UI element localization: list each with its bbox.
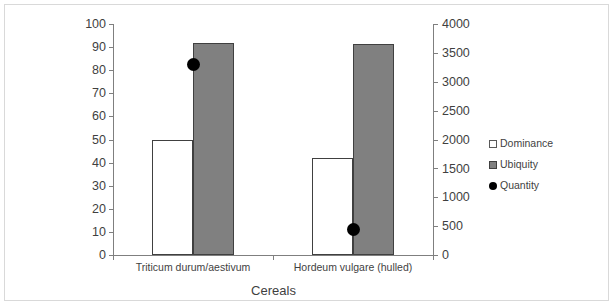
- y-axis-left-line: [113, 24, 114, 255]
- y-axis-left-tickmark: [109, 140, 113, 141]
- y-axis-left-tick-90: 90: [60, 41, 106, 54]
- legend: Dominance Ubiquity Quantity: [489, 133, 599, 196]
- y-axis-left-tickmark: [109, 93, 113, 94]
- y-axis-left-tickmark: [109, 24, 113, 25]
- y-axis-left-tick-80: 80: [60, 64, 106, 77]
- y-axis-left-tick-10: 10: [60, 226, 106, 239]
- y-axis-right-tickmark: [434, 226, 438, 227]
- y-axis-left-tick-70: 70: [60, 87, 106, 100]
- y-axis-right-tick-3000: 3000: [442, 76, 488, 89]
- open-square-icon: [489, 140, 497, 148]
- legend-label-quantity: Quantity: [500, 180, 539, 191]
- y-axis-left-tick-40: 40: [60, 157, 106, 170]
- x-axis-tickmark: [433, 255, 434, 260]
- legend-item-dominance[interactable]: Dominance: [489, 133, 599, 154]
- bar-dominance-hordeum[interactable]: [312, 158, 353, 255]
- filled-circle-icon: [489, 182, 497, 190]
- legend-item-ubiquity[interactable]: Ubiquity: [489, 154, 599, 175]
- y-axis-left-tickmark: [109, 70, 113, 71]
- legend-label-ubiquity: Ubiquity: [500, 159, 538, 170]
- x-axis-category-label-triticum: Triticum durum/aestivum: [113, 262, 273, 273]
- y-axis-right-tick-1000: 1000: [442, 191, 488, 204]
- bar-ubiquity-hordeum[interactable]: [353, 44, 394, 255]
- x-axis-category-label-hordeum: Hordeum vulgare (hulled): [273, 262, 433, 273]
- y-axis-left-tick-60: 60: [60, 110, 106, 123]
- y-axis-right-tickmark: [434, 53, 438, 54]
- y-axis-right-tickmark: [434, 24, 438, 25]
- y-axis-right-tickmark: [434, 197, 438, 198]
- y-axis-right-tick-3500: 3500: [442, 47, 488, 60]
- y-axis-left-tick-20: 20: [60, 203, 106, 216]
- chart-container: 100 90 80 70 60 50 40 30 20 10 0 4000 35…: [0, 0, 615, 307]
- y-axis-left-tickmark: [109, 116, 113, 117]
- y-axis-left-tick-0: 0: [60, 249, 106, 262]
- marker-quantity-hordeum[interactable]: [347, 223, 360, 236]
- y-axis-right-tickmark: [434, 140, 438, 141]
- y-axis-left-tickmark: [109, 209, 113, 210]
- y-axis-left-tick-30: 30: [60, 180, 106, 193]
- y-axis-left-tickmark: [109, 47, 113, 48]
- marker-quantity-triticum[interactable]: [187, 58, 200, 71]
- y-axis-right-tickmark: [434, 168, 438, 169]
- filled-square-icon: [489, 161, 497, 169]
- y-axis-right-tickmark: [434, 255, 438, 256]
- plot-area: [113, 24, 433, 255]
- y-axis-right-tick-500: 500: [442, 220, 488, 233]
- y-axis-left-tick-100: 100: [60, 18, 106, 31]
- bar-dominance-triticum[interactable]: [152, 140, 193, 256]
- y-axis-right-tick-1500: 1500: [442, 163, 488, 176]
- y-axis-right-tick-4000: 4000: [442, 18, 488, 31]
- x-axis-title: Cereals: [113, 283, 434, 298]
- y-axis-left-tickmark: [109, 163, 113, 164]
- y-axis-left-tickmark: [109, 232, 113, 233]
- y-axis-right-tick-2500: 2500: [442, 105, 488, 118]
- y-axis-right-tick-0: 0: [442, 249, 488, 262]
- y-axis-right-tick-2000: 2000: [442, 134, 488, 147]
- x-axis-tickmark: [113, 255, 114, 260]
- legend-item-quantity[interactable]: Quantity: [489, 175, 599, 196]
- y-axis-left-tick-50: 50: [60, 134, 106, 147]
- x-axis-tickmark: [273, 255, 274, 260]
- y-axis-right-tickmark: [434, 82, 438, 83]
- bar-ubiquity-triticum[interactable]: [193, 43, 234, 256]
- y-axis-right-tickmark: [434, 111, 438, 112]
- y-axis-left-tickmark: [109, 186, 113, 187]
- legend-label-dominance: Dominance: [500, 138, 553, 149]
